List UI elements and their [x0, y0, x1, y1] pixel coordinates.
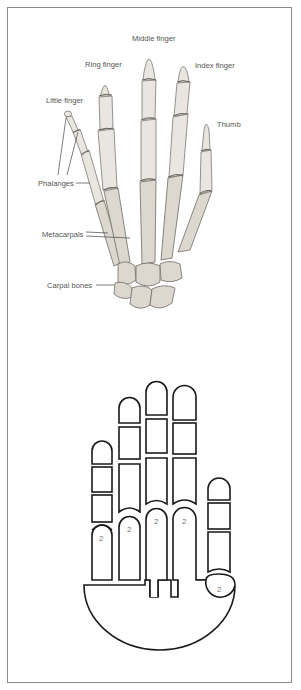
label-little-finger: Little finger	[46, 96, 84, 105]
digit-label-middle: 2	[154, 517, 159, 526]
label-thumb: Thumb	[217, 120, 241, 129]
schematic-thumb	[206, 478, 235, 585]
digit-label-index: 2	[182, 517, 187, 526]
skeletal-hand-illustration	[65, 59, 213, 308]
digit-label-little: 2	[99, 534, 104, 543]
schematic-little-finger	[92, 441, 112, 580]
label-ring-finger: Ring finger	[85, 60, 122, 69]
schematic-middle-finger	[146, 382, 167, 597]
schematic-ring-finger	[119, 398, 140, 581]
label-index-finger: Index finger	[195, 61, 235, 70]
ring-finger-bones	[98, 86, 130, 267]
hand-figure: Middle finger Ring finger Index finger L…	[0, 0, 301, 690]
digit-label-ring: 2	[127, 525, 132, 534]
schematic-hand: 2 2 2 2 2	[84, 382, 235, 650]
middle-finger-bones	[140, 59, 156, 264]
label-phalanges: Phalanges	[38, 179, 74, 188]
label-middle-finger: Middle finger	[132, 34, 176, 43]
schematic-index-finger	[173, 386, 206, 597]
label-metacarpals: Metacarpals	[42, 230, 84, 239]
label-carpal-bones: Carpal bones	[47, 281, 92, 290]
schematic-palm	[84, 580, 235, 650]
carpal-bones	[114, 262, 182, 309]
digit-label-thumb: 2	[217, 585, 222, 594]
